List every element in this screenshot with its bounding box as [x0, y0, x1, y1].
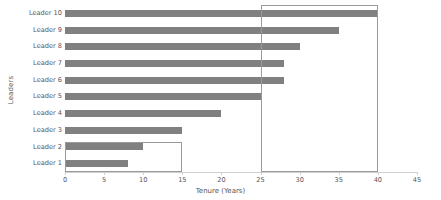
highlight-rect-upper[interactable]: [261, 5, 378, 172]
x-axis-tick: [378, 172, 379, 175]
x-axis-tick-label: 25: [246, 176, 276, 184]
x-axis-tick: [104, 172, 105, 175]
y-axis-tick-label: Leader 3: [4, 127, 62, 134]
y-axis-tick-label: Leader 6: [4, 77, 62, 84]
x-axis-tick: [339, 172, 340, 175]
x-axis-tick: [182, 172, 183, 175]
x-axis-tick-label: 5: [89, 176, 119, 184]
x-axis-line: [65, 172, 417, 173]
x-axis-tick-label: 35: [324, 176, 354, 184]
y-axis-tick-label: Leader 10: [4, 10, 62, 17]
x-axis-tick-label: 30: [285, 176, 315, 184]
x-axis-tick: [65, 172, 66, 175]
y-axis-tick-label: Leader 2: [4, 144, 62, 151]
bar: [65, 127, 182, 134]
y-axis-tick-label: Leader 7: [4, 60, 62, 67]
x-axis-tick: [300, 172, 301, 175]
x-axis-tick-label: 15: [167, 176, 197, 184]
x-axis-title: Tenure (Years): [0, 187, 441, 195]
bar: [65, 60, 284, 67]
y-axis-tick-label: Leader 4: [4, 110, 62, 117]
x-axis-tick: [417, 172, 418, 175]
y-axis-tick-labels: Leader 10Leader 9Leader 8Leader 7Leader …: [0, 0, 62, 200]
bar: [65, 93, 261, 100]
x-axis-tick: [221, 172, 222, 175]
x-axis-tick: [261, 172, 262, 175]
x-axis-tick-label: 40: [363, 176, 393, 184]
bar-chart: Leaders Leader 10Leader 9Leader 8Leader …: [0, 0, 441, 200]
x-axis-tick-label: 10: [128, 176, 158, 184]
bar: [65, 77, 284, 84]
x-axis-tick-label: 45: [402, 176, 432, 184]
y-axis-tick-label: Leader 8: [4, 43, 62, 50]
bar: [65, 110, 221, 117]
x-axis-tick-label: 20: [206, 176, 236, 184]
highlight-rect-lower[interactable]: [65, 142, 182, 172]
y-axis-tick-label: Leader 9: [4, 27, 62, 34]
y-axis-tick-label: Leader 5: [4, 93, 62, 100]
x-axis-tick: [143, 172, 144, 175]
y-axis-tick-label: Leader 1: [4, 160, 62, 167]
x-axis-tick-label: 0: [50, 176, 80, 184]
